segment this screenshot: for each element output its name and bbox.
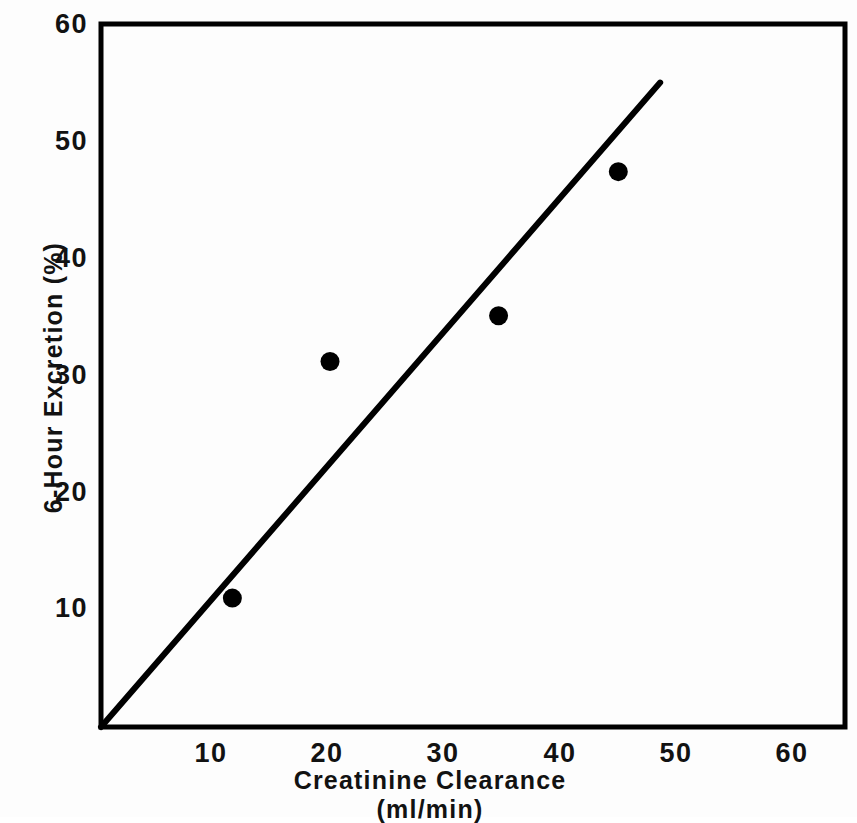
- x-tick-label-50: 50: [659, 740, 692, 767]
- y-axis-title: 6-Hour Excretion (%): [39, 168, 68, 588]
- x-tick-label-30: 30: [426, 740, 459, 767]
- x-tick-label-40: 40: [543, 740, 576, 767]
- y-tick-label-60: 60: [26, 11, 88, 38]
- x-tick-label-10: 10: [194, 740, 227, 767]
- data-point: [609, 162, 628, 181]
- x-tick-label-60: 60: [775, 740, 808, 767]
- data-point: [489, 306, 508, 325]
- y-tick-label-10: 10: [26, 595, 88, 622]
- x-axis-title: Creatinine Clearance: [294, 768, 567, 793]
- trend-line: [101, 83, 660, 727]
- data-point: [223, 589, 242, 608]
- x-tick-label-20: 20: [310, 740, 343, 767]
- data-point-group: [223, 162, 628, 607]
- axes-frame: [101, 24, 845, 727]
- x-axis-units: (ml/min): [377, 797, 484, 822]
- y-tick-label-50: 50: [26, 128, 88, 155]
- data-point: [321, 352, 340, 371]
